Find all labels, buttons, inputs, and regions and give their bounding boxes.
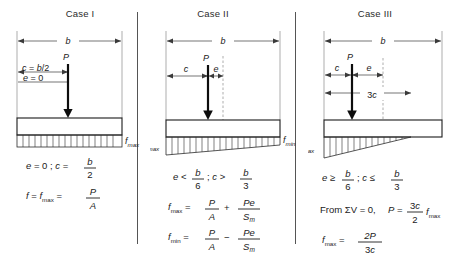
case-3-equilibrium-text: From ΣV = 0, bbox=[320, 204, 376, 215]
case-1-drawing: b c = b/2 e = 0 P bbox=[0, 28, 140, 248]
svg-text:A: A bbox=[89, 200, 96, 211]
svg-text:e = 0 ; c =: e = 0 ; c = bbox=[26, 160, 69, 171]
case-1-c-label: c = b/2 bbox=[22, 63, 49, 73]
svg-text:A: A bbox=[208, 211, 215, 222]
case-2-equation-2: fmax = P A + Pe Sm bbox=[168, 197, 260, 223]
svg-text:3: 3 bbox=[243, 180, 248, 191]
case-2-fmin-label: fmin bbox=[283, 135, 296, 147]
svg-text:2: 2 bbox=[87, 169, 92, 180]
svg-text:e ≥: e ≥ bbox=[322, 172, 335, 183]
case-3-dim-b: b bbox=[325, 34, 441, 47]
case-2-dim-e: e bbox=[209, 64, 223, 78]
svg-text:3: 3 bbox=[394, 181, 399, 192]
svg-text:Pe: Pe bbox=[243, 227, 255, 238]
case-3-footing bbox=[324, 120, 442, 137]
case-1-stress-block bbox=[17, 135, 122, 147]
case-2-load-label: P bbox=[203, 53, 209, 63]
svg-text:P: P bbox=[209, 227, 216, 238]
svg-text:3c: 3c bbox=[365, 244, 375, 253]
case-2-dim-b: b bbox=[167, 34, 279, 47]
case-2-stress-block bbox=[166, 137, 280, 155]
case-3-3c-label: 3c bbox=[367, 90, 377, 100]
svg-text:b: b bbox=[394, 168, 399, 179]
svg-text:P =: P = bbox=[388, 204, 403, 215]
svg-text:P: P bbox=[209, 197, 216, 208]
case-2-footing bbox=[166, 120, 280, 137]
case-2-title: Case II bbox=[163, 8, 263, 19]
case-2-fmax-label: fmax bbox=[150, 140, 160, 152]
svg-text:Sm: Sm bbox=[243, 211, 255, 223]
case-3-dim-3c: 3c bbox=[325, 87, 411, 100]
case-3-load-label: P bbox=[347, 52, 353, 62]
case-3-fmax-label: fmax bbox=[308, 142, 315, 154]
case-3-drawing: b c e 3c P bbox=[308, 28, 458, 253]
svg-text:6: 6 bbox=[345, 181, 350, 192]
svg-text:b: b bbox=[345, 168, 350, 179]
svg-text:b: b bbox=[195, 167, 200, 178]
svg-text:P: P bbox=[90, 186, 97, 197]
case-3-b-label: b bbox=[380, 36, 385, 46]
svg-text:Pe: Pe bbox=[243, 197, 255, 208]
case-2-equation-1: e < b 6 ; c > b 3 bbox=[173, 167, 252, 191]
svg-text:fmax =: fmax = bbox=[168, 201, 191, 214]
case-1-footing bbox=[17, 118, 122, 135]
svg-text:2P: 2P bbox=[363, 230, 376, 241]
case-3-dim-c: c bbox=[325, 63, 351, 78]
case-3-stress-block bbox=[324, 137, 411, 158]
svg-text:b: b bbox=[87, 156, 92, 167]
case-2-c-label: c bbox=[184, 64, 189, 74]
case-1-dim-b: b bbox=[18, 34, 121, 47]
case-1-fmax-label: fmax bbox=[125, 136, 140, 148]
svg-text:e <: e < bbox=[173, 171, 187, 182]
svg-text:Sm: Sm bbox=[243, 241, 255, 253]
svg-text:b: b bbox=[243, 167, 248, 178]
case-2-equation-3: fmin = P A − Pe Sm bbox=[168, 227, 260, 253]
svg-text:A: A bbox=[208, 241, 215, 252]
svg-text:fmin =: fmin = bbox=[168, 231, 189, 244]
svg-text:3c: 3c bbox=[410, 200, 420, 211]
case-1-load-label: P bbox=[63, 52, 69, 62]
case-1-e-label: e = 0 bbox=[23, 73, 43, 83]
svg-text:; c >: ; c > bbox=[207, 171, 226, 182]
case-3-title: Case III bbox=[325, 8, 425, 19]
case-2-e-label: e bbox=[213, 64, 218, 74]
pressure-distribution-figure: Case I Case II Case III b c = b/2 e bbox=[0, 0, 458, 257]
case-3-load-arrow bbox=[347, 64, 357, 120]
svg-text:fmax =: fmax = bbox=[322, 234, 345, 247]
case-2-drawing: b c e P bbox=[150, 28, 310, 253]
case-2-dim-c: c bbox=[167, 64, 208, 79]
case-2-b-label: b bbox=[220, 36, 225, 46]
svg-text:f = fmax =: f = fmax = bbox=[26, 190, 62, 203]
case-3-equation-1: e ≥ b 6 ; c ≤ b 3 bbox=[322, 168, 403, 192]
case-3-equation-3: fmax = 2P 3c bbox=[322, 230, 382, 253]
svg-text:; c ≤: ; c ≤ bbox=[357, 172, 375, 183]
case-1-equation-1: e = 0 ; c = b 2 bbox=[26, 156, 96, 180]
case-3-e-label: e bbox=[366, 63, 371, 73]
svg-text:fmax: fmax bbox=[426, 206, 441, 219]
case-1-title: Case I bbox=[30, 8, 130, 19]
svg-text:+: + bbox=[224, 202, 230, 213]
case-3-equation-2: From ΣV = 0, P = 3c 2 fmax bbox=[320, 200, 441, 225]
svg-text:−: − bbox=[224, 232, 230, 243]
case-3-dim-e: e bbox=[352, 63, 383, 78]
case-1-b-label: b bbox=[65, 36, 70, 46]
case-3-c-label: c bbox=[335, 63, 340, 73]
case-2-load-arrow bbox=[203, 65, 213, 120]
svg-text:2: 2 bbox=[412, 214, 417, 225]
case-1-equation-2: f = fmax = P A bbox=[26, 186, 100, 211]
svg-text:6: 6 bbox=[195, 180, 200, 191]
